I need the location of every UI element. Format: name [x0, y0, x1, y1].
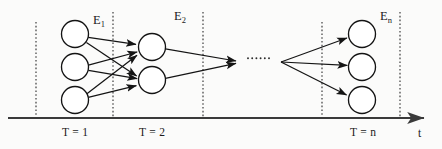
node-tn-2 [349, 54, 376, 81]
epoch-label-n: En [380, 10, 392, 23]
epoch-label-1: E1 [93, 14, 105, 27]
epoch-label-n-base: E [380, 9, 388, 23]
edges-fanout-to-layern [281, 38, 347, 95]
node-t2-2 [139, 67, 166, 94]
node-tn-1 [349, 21, 376, 48]
node-t1-2 [62, 54, 89, 81]
epoch-label-2: E2 [174, 10, 186, 23]
node-tn-3 [349, 87, 376, 114]
edge-n2a-converge [165, 49, 236, 61]
time-label-2: T = 2 [139, 127, 165, 139]
edge-n1a-n2a [88, 37, 136, 44]
time-axis-label: t [418, 128, 421, 140]
edges-layer1-to-layer2 [86, 37, 137, 97]
edge-fanout-nnb [281, 62, 347, 65]
epoch-label-n-sub: n [388, 15, 392, 25]
epoch-label-2-base: E [174, 9, 182, 23]
edge-n2b-converge [165, 63, 236, 78]
edges-layer2-to-convergence [165, 49, 236, 79]
node-t2-1 [139, 34, 166, 61]
epoch-label-1-base: E [93, 13, 101, 27]
epoch-label-2-sub: 2 [182, 15, 186, 25]
edge-fanout-nna [281, 38, 347, 62]
layer-tn-nodes [349, 21, 376, 114]
node-t1-1 [62, 21, 89, 48]
ellipsis-dots [247, 57, 270, 59]
layer-t2-nodes [139, 34, 166, 94]
node-t1-3 [62, 87, 89, 114]
network-diagram-figure: E1 E2 En T = 1 T = 2 T = n t [0, 0, 442, 149]
edge-fanout-nnc [281, 62, 347, 95]
epoch-label-1-sub: 1 [101, 19, 105, 29]
time-label-1: T = 1 [62, 127, 88, 139]
edge-n1c-n2a [87, 55, 137, 94]
time-label-n: T = n [350, 127, 376, 139]
layer-t1-nodes [62, 21, 89, 114]
